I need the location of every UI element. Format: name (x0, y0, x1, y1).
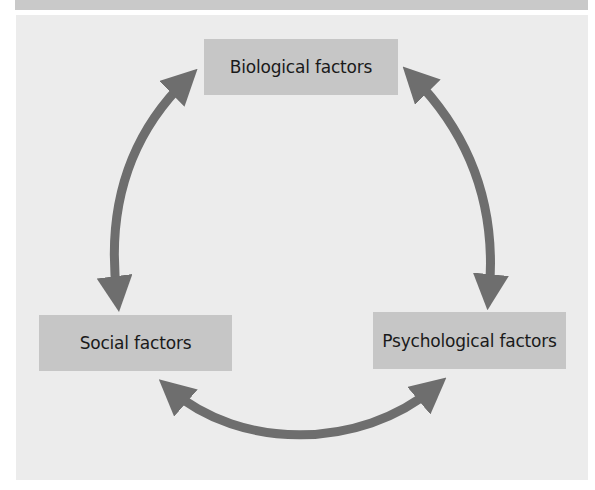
node-psychological-factors: Psychological factors (373, 312, 566, 369)
node-label: Social factors (80, 333, 192, 353)
arrow-bio-social-icon (114, 80, 186, 296)
arrow-social-psych-icon (171, 388, 434, 435)
arrow-bio-psych-icon (414, 78, 490, 294)
node-label: Biological factors (230, 57, 372, 77)
node-label: Psychological factors (382, 331, 556, 351)
node-social-factors: Social factors (39, 315, 232, 371)
node-biological-factors: Biological factors (204, 39, 398, 95)
